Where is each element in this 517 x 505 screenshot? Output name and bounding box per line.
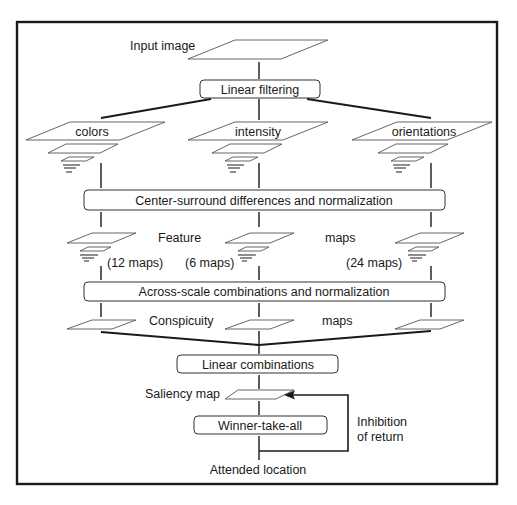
colors-conspicuity-plane <box>67 320 136 329</box>
conspicuity-maps-row: Conspicuity maps <box>67 314 464 329</box>
colors-feature-count: (12 maps) <box>107 256 163 270</box>
intensity-plane-2 <box>225 157 258 161</box>
across-scale-label: Across-scale combinations and normalizat… <box>139 285 390 299</box>
orientations-feature-plane-1 <box>408 247 439 251</box>
orientations-pyramid: orientations <box>352 122 492 172</box>
colors-pyramid: colors <box>26 122 165 172</box>
intensity-conspicuity-plane <box>225 320 294 329</box>
across-scale-stage: Across-scale combinations and normalizat… <box>84 282 445 301</box>
colors-plane-1 <box>48 144 118 153</box>
feature-maps-label-right: maps <box>325 231 356 245</box>
winner-take-all-label: Winner-take-all <box>218 419 302 433</box>
colors-plane-2 <box>61 157 94 161</box>
colors-label: colors <box>75 125 108 139</box>
colors-feature-plane-1 <box>80 247 111 251</box>
inhibition-label-line2: of return <box>357 430 404 444</box>
feature-maps-label-left: Feature <box>158 231 201 245</box>
winner-take-all-stage: Winner-take-all <box>194 416 327 434</box>
orientations-feature-count: (24 maps) <box>346 256 402 270</box>
linear-filtering-stage: Linear filtering <box>200 80 320 98</box>
linear-filtering-label: Linear filtering <box>221 83 300 97</box>
intensity-feature-plane-0 <box>225 233 294 243</box>
intensity-plane-1 <box>212 144 282 153</box>
attended-location-label: Attended location <box>210 463 307 477</box>
intensity-feature-count: (6 maps) <box>185 256 234 270</box>
attention-model-diagram: Input image Linear filtering colors inte… <box>0 0 517 505</box>
inhibition-label-line1: Inhibition <box>357 415 407 429</box>
saliency-map-label: Saliency map <box>145 387 220 401</box>
orientations-feature-plane-0 <box>395 233 464 243</box>
conspicuity-maps-label-left: Conspicuity <box>149 314 214 328</box>
intensity-label: intensity <box>235 125 282 139</box>
orientations-plane-2 <box>391 157 424 161</box>
converge-orientations <box>259 331 431 345</box>
input-image-plane <box>188 40 328 59</box>
converge-colors <box>101 332 259 345</box>
feature-maps-row: Feature maps (12 maps) (6 maps) (24 maps… <box>67 231 464 270</box>
saliency-map-node: Saliency map <box>145 387 294 401</box>
orientations-label: orientations <box>392 125 457 139</box>
intensity-feature-plane-1 <box>238 247 269 251</box>
orientations-conspicuity-plane <box>395 320 464 329</box>
saliency-map-plane <box>225 390 294 399</box>
conspicuity-maps-label-right: maps <box>322 314 353 328</box>
colors-feature-plane-0 <box>67 233 136 243</box>
orientations-plane-1 <box>378 144 448 153</box>
input-image-node: Input image <box>130 39 328 59</box>
branch-to-colors <box>101 99 211 118</box>
center-surround-stage: Center-surround differences and normaliz… <box>84 190 445 210</box>
linear-combinations-label: Linear combinations <box>202 358 314 372</box>
center-surround-label: Center-surround differences and normaliz… <box>135 194 393 208</box>
input-image-label: Input image <box>130 39 195 53</box>
linear-combinations-stage: Linear combinations <box>177 355 338 373</box>
branch-to-orientations <box>307 99 431 118</box>
intensity-pyramid: intensity <box>188 122 328 172</box>
